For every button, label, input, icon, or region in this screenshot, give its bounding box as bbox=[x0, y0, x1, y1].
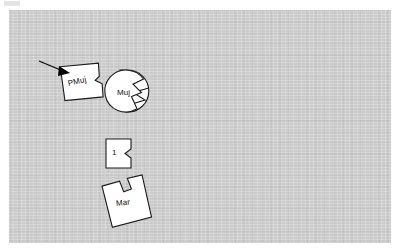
figure-canvas: PMuj Muj 1 Mar bbox=[0, 0, 401, 250]
shape-layer bbox=[0, 0, 401, 250]
shape-one-label: 1 bbox=[112, 148, 117, 157]
shape-mar-label: Mar bbox=[116, 198, 131, 208]
shape-one[interactable] bbox=[106, 139, 131, 168]
shape-muj-label: Muj bbox=[117, 88, 130, 97]
shape-one-outline bbox=[106, 139, 131, 168]
